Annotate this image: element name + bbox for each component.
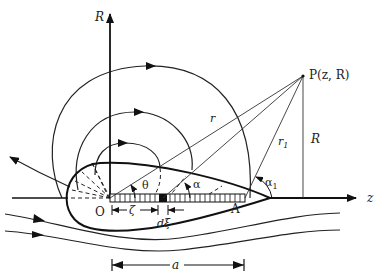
r-axis-label: R [94,10,104,24]
alpha-label: α [193,178,201,191]
rankine-body-diagram: R z O A P(z, R) r r1 R θ α α1 ζ dξ a [0,0,382,279]
field-point-P [301,74,304,77]
dxi-arrow [168,207,175,213]
alpha1-label: α1 [265,176,278,191]
zeta-label: ζ [129,204,136,217]
a-length-label: a [172,258,179,272]
middle-streamline-loop [76,112,192,190]
d-xi-label: dξ [157,217,171,230]
middle-loop-arrow [134,108,144,116]
origin-label: O [95,205,105,219]
lower-streamline-2-arrow [32,231,44,238]
escaping-streamline [10,157,70,187]
point-A-label: A [230,202,240,216]
zeta-arrow-left [112,207,119,213]
inner-loop-arrow [118,139,128,147]
r1-distance-label: r1 [278,135,288,150]
height-R-label: R [310,132,320,146]
line-source-strip [110,194,245,202]
a-arrow-left [112,261,123,269]
outer-loop-arrow [146,62,156,70]
zeta-arrow-right [151,207,158,213]
outer-streamline-loop [52,66,250,198]
z-axis-label: z [366,191,374,205]
r-distance-label: r [210,112,216,125]
theta-label: θ [142,179,149,192]
lower-streamline-1 [5,213,340,240]
inner-streamline-loop [95,143,160,175]
a-arrow-right [233,261,244,269]
lower-streamline-2 [5,230,340,251]
field-point-label: P(z, R) [309,68,349,82]
